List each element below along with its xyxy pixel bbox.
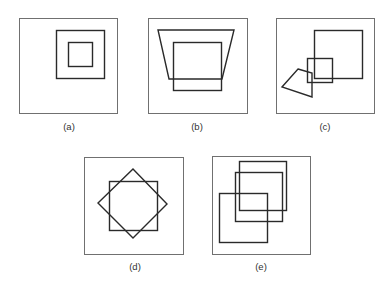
- square-shape: [57, 31, 105, 79]
- panel-frame: [85, 158, 184, 255]
- square-shape: [240, 162, 287, 211]
- square-shape: [236, 173, 283, 222]
- panel-label-a: (a): [63, 121, 75, 132]
- panel-frame: [213, 157, 311, 255]
- square-shape: [220, 194, 268, 243]
- panel-label-d: (d): [129, 261, 141, 272]
- square-shape: [69, 43, 93, 67]
- panel-frame: [277, 19, 375, 114]
- geometric-overlap-diagram: (a) (b) (c) (d) (e): [0, 0, 392, 283]
- panel-b: [149, 19, 248, 114]
- panel-label-c: (c): [319, 121, 330, 132]
- square-shape: [174, 43, 222, 91]
- panel-d: [85, 158, 184, 255]
- panel-e: [213, 157, 311, 255]
- panel-c: [277, 19, 375, 114]
- polygon-shape: [158, 30, 234, 79]
- square-shape: [110, 182, 158, 231]
- panel-a: [20, 19, 118, 114]
- panel-label-e: (e): [255, 261, 267, 272]
- panel-label-b: (b): [191, 121, 203, 132]
- square-shape: [315, 31, 363, 79]
- polygon-shape: [98, 169, 167, 238]
